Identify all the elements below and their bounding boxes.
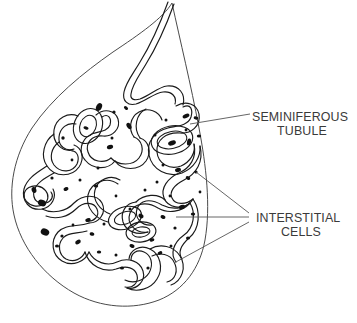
label-seminiferous-tubule: SEMINIFEROUS TUBULE [252,110,348,138]
label-seminiferous-line1: SEMINIFEROUS [252,110,348,124]
label-interstitial-line2: CELLS [281,225,321,239]
label-seminiferous-line2: TUBULE [277,124,327,138]
testis-diagram: SEMINIFEROUS TUBULE INTERSTITIAL CELLS [0,0,357,323]
label-interstitial-cells: INTERSTITIAL CELLS [256,211,340,239]
label-interstitial-line1: INTERSTITIAL [256,211,340,225]
